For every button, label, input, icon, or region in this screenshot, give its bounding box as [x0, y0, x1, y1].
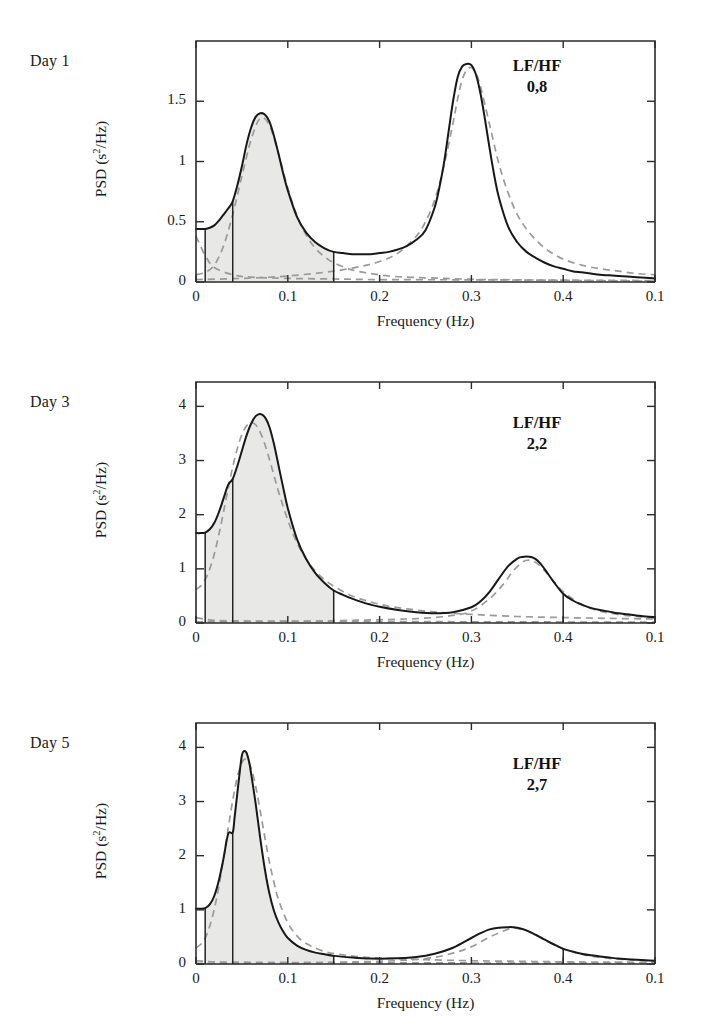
- lfhf-value: 0,8: [513, 76, 562, 97]
- y-tick-label: 1: [134, 152, 186, 169]
- x-tick-label: 0.1: [625, 288, 685, 305]
- lf-band-shading: [205, 113, 334, 282]
- y-tick-label: 0.5: [134, 212, 186, 229]
- y-tick-label: 0: [134, 272, 186, 289]
- y-tick-label: 4: [134, 737, 186, 754]
- y-tick-label: 4: [134, 396, 186, 413]
- panel-day-3: Day 3 LF/HF 2,2 00.10.20.30.40.101234PSD…: [0, 341, 718, 681]
- lfhf-value: 2,2: [513, 433, 562, 454]
- psd-figure: Day 1 LF/HF 0,8 00.10.20.30.40.100.511.5…: [0, 0, 718, 1027]
- lfhf-annotation-day-1: LF/HF 0,8: [513, 55, 562, 97]
- lfhf-annotation-day-5: LF/HF 2,7: [513, 753, 562, 795]
- x-tick-label: 0.1: [258, 288, 318, 305]
- x-tick-label: 0.1: [258, 970, 318, 987]
- y-tick-label: 0: [134, 613, 186, 630]
- x-tick-label: 0.3: [441, 970, 501, 987]
- y-tick-label: 2: [134, 505, 186, 522]
- x-tick-label: 0.2: [350, 288, 410, 305]
- lfhf-annotation-day-3: LF/HF 2,2: [513, 412, 562, 454]
- panel-day-5: Day 5 LF/HF 2,7 00.10.20.30.40.101234PSD…: [0, 682, 718, 1022]
- lfhf-label: LF/HF: [513, 753, 562, 774]
- lfhf-label: LF/HF: [513, 412, 562, 433]
- x-tick-label: 0: [166, 970, 226, 987]
- x-tick-label: 0.1: [625, 970, 685, 987]
- y-tick-label: 3: [134, 792, 186, 809]
- y-tick-label: 0: [134, 954, 186, 971]
- y-axis-label: PSD (s2/Hz): [92, 751, 110, 931]
- panel-title-day-3: Day 3: [30, 393, 70, 411]
- x-tick-label: 0.2: [350, 970, 410, 987]
- x-tick-label: 0.4: [533, 288, 593, 305]
- lfhf-label: LF/HF: [513, 55, 562, 76]
- x-axis-label: Frequency (Hz): [67, 312, 718, 330]
- lfhf-value: 2,7: [513, 774, 562, 795]
- panel-title-day-1: Day 1: [30, 52, 70, 70]
- y-tick-label: 3: [134, 451, 186, 468]
- x-tick-label: 0.3: [441, 288, 501, 305]
- panel-title-day-5: Day 5: [30, 734, 70, 752]
- y-axis-label: PSD (s2/Hz): [92, 69, 110, 249]
- x-tick-label: 0.4: [533, 970, 593, 987]
- panel-day-1: Day 1 LF/HF 0,8 00.10.20.30.40.100.511.5…: [0, 0, 718, 340]
- x-tick-label: 0.4: [533, 629, 593, 646]
- x-tick-label: 0.2: [350, 629, 410, 646]
- x-tick-label: 0.1: [625, 629, 685, 646]
- x-tick-label: 0: [166, 629, 226, 646]
- lf-band-shading: [205, 414, 334, 623]
- y-axis-label: PSD (s2/Hz): [92, 410, 110, 590]
- x-axis-label: Frequency (Hz): [67, 653, 718, 671]
- x-axis-label: Frequency (Hz): [67, 994, 718, 1012]
- x-tick-label: 0.1: [258, 629, 318, 646]
- y-tick-label: 1.5: [134, 91, 186, 108]
- y-tick-label: 1: [134, 900, 186, 917]
- x-tick-label: 0: [166, 288, 226, 305]
- y-tick-label: 1: [134, 559, 186, 576]
- y-tick-label: 2: [134, 846, 186, 863]
- x-tick-label: 0.3: [441, 629, 501, 646]
